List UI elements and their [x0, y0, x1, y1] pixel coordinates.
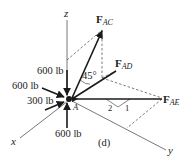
y-axis [72, 101, 166, 150]
force-ac-label: FAC [96, 14, 113, 27]
z-axis-label: z [64, 8, 68, 19]
angle-label: 45° [82, 71, 97, 82]
load-z-down-label: 600 lb [37, 66, 64, 77]
force-ad-label: FAD [115, 58, 132, 71]
force-ae-label: FAE [163, 94, 180, 107]
slope-run-label: 2 [108, 104, 112, 113]
figure-label: (d) [98, 138, 110, 149]
x-axis-label: x [11, 136, 16, 147]
load-x-label: 300 lb [27, 96, 54, 107]
free-body-diagram: z x y FAC FAD FAE 600 lb 600 lb 300 lb 6… [0, 0, 195, 165]
y-axis-label: y [168, 145, 173, 156]
load-left-upper-label: 600 lb [12, 81, 39, 92]
slope-rise-label: 1 [125, 104, 129, 113]
load-bottom-up-label: 600 lb [55, 129, 82, 140]
point-a-label: A [73, 103, 78, 112]
point-a [66, 96, 72, 102]
force-ac-arrow [72, 31, 102, 98]
